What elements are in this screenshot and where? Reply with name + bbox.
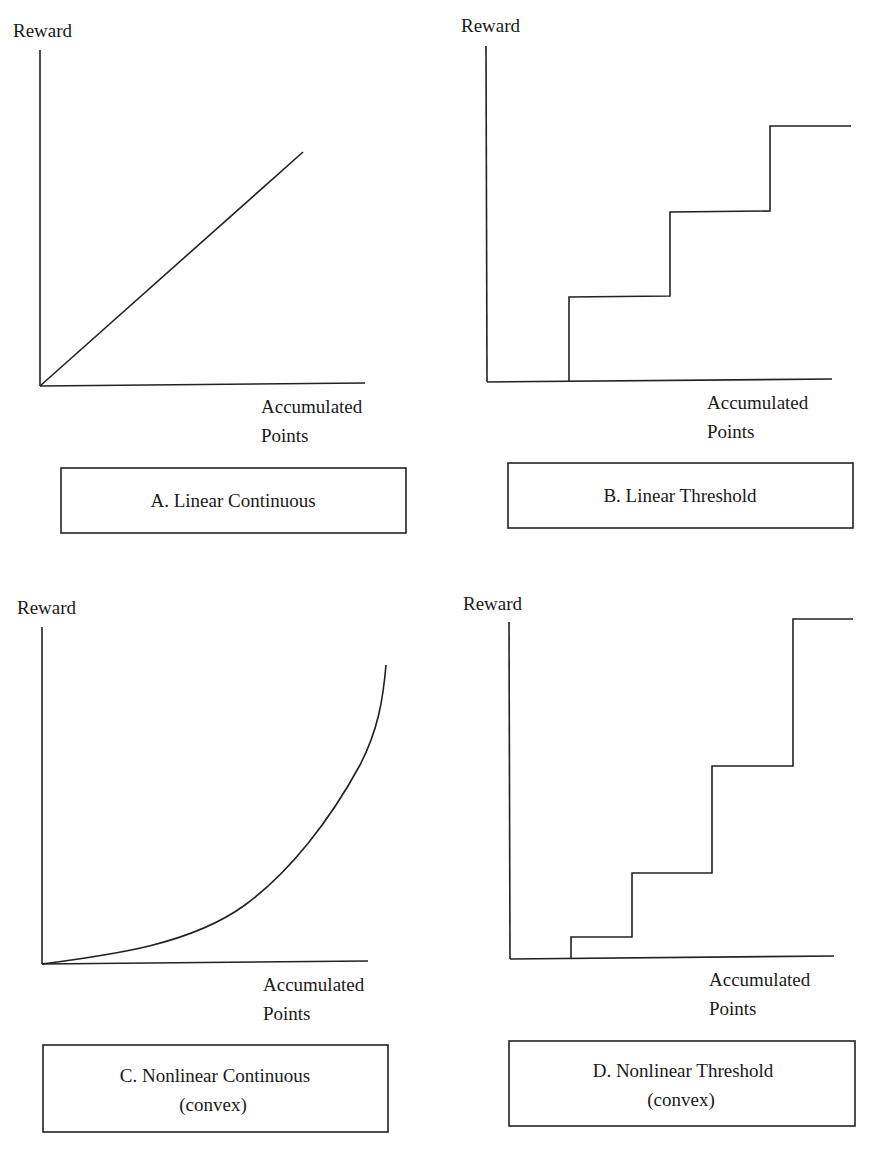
- panel-c-y-axis-label: Reward: [17, 597, 77, 618]
- panel-c-x-axis-label-line2: Points: [263, 1003, 311, 1024]
- panel-c-x-axis: [42, 961, 368, 964]
- panel-d-x-axis: [510, 956, 834, 959]
- panel-d-step-line: [571, 619, 853, 958]
- panel-a-linear-line: [40, 152, 303, 386]
- panel-d-x-axis-label-line1: Accumulated: [709, 969, 811, 990]
- panel-d-y-axis-label: Reward: [463, 593, 523, 614]
- panel-b-y-axis: [486, 46, 487, 382]
- panel-d-caption-box: [509, 1041, 855, 1126]
- panel-a-x-axis-label-line2: Points: [261, 425, 309, 446]
- panel-a-y-axis-label: Reward: [13, 20, 73, 41]
- panel-b-caption: B. Linear Threshold: [603, 485, 757, 506]
- panel-c-caption-line1: C. Nonlinear Continuous: [120, 1065, 311, 1086]
- panel-b-x-axis-label-line2: Points: [707, 421, 755, 442]
- panel-b-x-axis-label-line1: Accumulated: [707, 392, 809, 413]
- panel-c-x-axis-label-line1: Accumulated: [263, 974, 365, 995]
- panel-b-x-axis: [487, 379, 832, 382]
- panel-a-x-axis: [40, 383, 365, 386]
- panel-b: Reward Accumulated Points B. Linear Thre…: [461, 15, 853, 528]
- panel-c-convex-curve: [42, 665, 386, 964]
- reward-schedules-figure: Reward Accumulated Points A. Linear Cont…: [0, 0, 874, 1154]
- panel-d-caption-line2: (convex): [647, 1089, 715, 1111]
- panel-d-y-axis: [509, 622, 510, 959]
- panel-c-caption-line2: (convex): [179, 1094, 247, 1116]
- panel-a-x-axis-label-line1: Accumulated: [261, 396, 363, 417]
- panel-a: Reward Accumulated Points A. Linear Cont…: [13, 20, 406, 533]
- panel-d-x-axis-label-line2: Points: [709, 998, 757, 1019]
- panel-b-y-axis-label: Reward: [461, 15, 521, 36]
- panel-d: Reward Accumulated Points D. Nonlinear T…: [463, 593, 855, 1126]
- panel-c-caption-box: [43, 1045, 388, 1132]
- panel-b-step-line: [569, 126, 851, 381]
- panel-a-caption: A. Linear Continuous: [150, 490, 315, 511]
- panel-d-caption-line1: D. Nonlinear Threshold: [593, 1060, 774, 1081]
- panel-c: Reward Accumulated Points C. Nonlinear C…: [17, 597, 388, 1132]
